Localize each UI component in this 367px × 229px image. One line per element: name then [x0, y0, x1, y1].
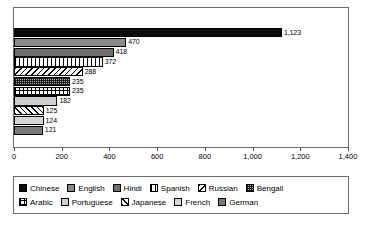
legend-item-japanese[interactable]: Japanese [121, 198, 175, 207]
axis-tick-label: 1,200 [291, 152, 310, 161]
bar-row: 235 [14, 77, 348, 86]
legend-label: Hindi [124, 184, 142, 193]
bar-row: 470 [14, 38, 348, 47]
legend-item-arabic[interactable]: Arabic [19, 198, 61, 207]
legend-item-chinese[interactable]: Chinese [19, 184, 67, 193]
chart-legend: ChineseEnglishHindiSpanishRussianBengali… [13, 176, 349, 214]
axis-tick [205, 148, 206, 151]
axis-tick-label: 1,400 [339, 152, 358, 161]
legend-swatch-icon [174, 198, 182, 206]
legend-label: Bengali [257, 184, 284, 193]
legend-swatch-icon [198, 184, 206, 192]
bar-row: 121 [14, 126, 348, 135]
axis-tick-label: 0 [12, 152, 16, 161]
legend-label: Russian [209, 184, 238, 193]
legend-label: Japanese [132, 198, 167, 207]
bar-row: 182 [14, 96, 348, 105]
bar-chinese [14, 28, 282, 37]
bar-hindi [14, 48, 114, 57]
bar-value-label: 1,123 [284, 29, 301, 37]
legend-item-spanish[interactable]: Spanish [150, 184, 198, 193]
bar-value-label: 124 [46, 117, 57, 125]
axis-tick [348, 148, 349, 151]
axis-tick-label: 800 [199, 152, 212, 161]
legend-row: ChineseEnglishHindiSpanishRussianBengali [19, 181, 343, 195]
bar-row: 1,123 [14, 28, 348, 37]
legend-label: Spanish [161, 184, 190, 193]
legend-item-french[interactable]: French [174, 198, 218, 207]
legend-item-german[interactable]: German [218, 198, 266, 207]
legend-swatch-icon [19, 198, 27, 206]
legend-item-hindi[interactable]: Hindi [113, 184, 150, 193]
bar-arabic [14, 87, 70, 96]
bar-value-label: 121 [45, 126, 56, 134]
bar-english [14, 38, 126, 47]
legend-swatch-icon [121, 198, 129, 206]
bar-value-label: 372 [105, 58, 116, 66]
bar-row: 288 [14, 67, 348, 76]
legend-swatch-icon [113, 184, 121, 192]
axis-tick [14, 148, 15, 151]
legend-item-russian[interactable]: Russian [198, 184, 246, 193]
legend-item-portuguese[interactable]: Portuguese [61, 198, 121, 207]
bar-french [14, 116, 44, 125]
axis-tick-label: 1,000 [243, 152, 262, 161]
axis-tick [300, 148, 301, 151]
legend-swatch-icon [61, 198, 69, 206]
bar-portuguese [14, 96, 57, 105]
axis-tick-label: 600 [151, 152, 164, 161]
chart-screenshot: 1,123470418372288235235182125124121 0200… [0, 0, 367, 229]
axis-tick [157, 148, 158, 151]
legend-label: Arabic [30, 198, 53, 207]
legend-label: German [229, 198, 258, 207]
axis-tick [109, 148, 110, 151]
bar-row: 125 [14, 106, 348, 115]
x-axis: 02004006008001,0001,2001,400 [14, 148, 349, 164]
bar-value-label: 470 [128, 38, 139, 46]
legend-swatch-icon [67, 184, 75, 192]
plot-area: 1,123470418372288235235182125124121 [14, 8, 348, 147]
bar-russian [14, 67, 83, 76]
bar-value-label: 235 [72, 78, 83, 86]
bar-row: 418 [14, 48, 348, 57]
legend-item-english[interactable]: English [67, 184, 112, 193]
bar-german [14, 126, 43, 135]
legend-item-bengali[interactable]: Bengali [246, 184, 292, 193]
legend-label: Chinese [30, 184, 59, 193]
legend-label: French [185, 198, 210, 207]
bar-bengali [14, 77, 70, 86]
bar-value-label: 418 [116, 48, 127, 56]
bar-value-label: 125 [46, 107, 57, 115]
legend-label: English [78, 184, 104, 193]
legend-swatch-icon [19, 184, 27, 192]
bar-value-label: 235 [72, 87, 83, 95]
bar-row: 124 [14, 116, 348, 125]
axis-tick [62, 148, 63, 151]
bar-spanish [14, 57, 103, 66]
bar-value-label: 182 [59, 97, 70, 105]
bar-japanese [14, 106, 44, 115]
axis-tick [253, 148, 254, 151]
bar-row: 235 [14, 87, 348, 96]
axis-tick-label: 200 [55, 152, 68, 161]
legend-label: Portuguese [72, 198, 113, 207]
bar-value-label: 288 [85, 68, 96, 76]
bar-series: 1,123470418372288235235182125124121 [14, 28, 348, 136]
legend-swatch-icon [150, 184, 158, 192]
axis-tick-label: 400 [103, 152, 116, 161]
legend-row: ArabicPortugueseJapaneseFrenchGerman [19, 195, 343, 209]
legend-swatch-icon [246, 184, 254, 192]
bar-row: 372 [14, 57, 348, 66]
legend-swatch-icon [218, 198, 226, 206]
